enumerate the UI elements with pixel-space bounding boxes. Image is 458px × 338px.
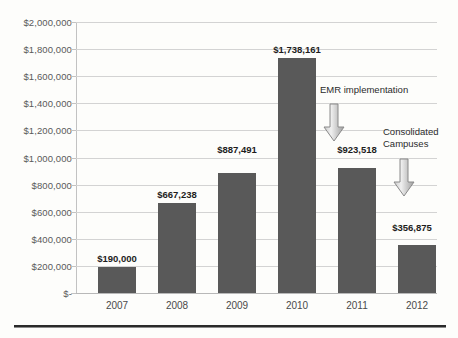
gridline: [76, 22, 437, 23]
gridline: [76, 158, 437, 159]
x-tick-label-2007: 2007: [106, 300, 128, 311]
bar-value-label-2012: $356,875: [392, 222, 432, 233]
gridline: [76, 212, 437, 213]
y-tick-label: $200,000: [0, 261, 72, 272]
x-tick-label-2010: 2010: [286, 300, 308, 311]
down-arrow-icon: [322, 103, 346, 143]
bar-value-label-2008: $667,238: [157, 189, 197, 200]
chart-page: $2,000,000 $1,800,000 $1,600,000 $1,400,…: [0, 0, 458, 338]
bar-value-label-2007: $190,000: [97, 253, 137, 264]
x-axis-baseline: [76, 293, 437, 294]
bar-2007[interactable]: [98, 267, 136, 293]
annotation-consolidated-text: Consolidated Campuses: [383, 126, 438, 150]
y-tick-label: $400,000: [0, 234, 72, 245]
gridline: [76, 185, 437, 186]
bar-2011[interactable]: [338, 168, 376, 293]
bar-value-label-2011: $923,518: [337, 144, 377, 155]
y-tick-label: $-: [0, 288, 72, 299]
gridline: [76, 239, 437, 240]
bar-value-label-2009: $887,491: [217, 144, 257, 155]
y-tick-label: $1,000,000: [0, 153, 72, 164]
x-tick-label-2011: 2011: [346, 300, 368, 311]
y-tick-label: $1,400,000: [0, 98, 72, 109]
bar-2010[interactable]: [278, 58, 316, 293]
annotation-emr-text: EMR implementation: [320, 84, 408, 96]
y-tick-label: $800,000: [0, 180, 72, 191]
gridline: [76, 76, 437, 77]
y-tick-label: $1,200,000: [0, 125, 72, 136]
y-axis-tick-labels: $2,000,000 $1,800,000 $1,600,000 $1,400,…: [0, 0, 72, 338]
y-tick-label: $2,000,000: [0, 17, 72, 28]
bar-2009[interactable]: [218, 173, 256, 293]
gridline: [76, 103, 437, 104]
down-arrow-icon: [392, 158, 416, 198]
y-tick-label: $1,800,000: [0, 44, 72, 55]
page-divider-rule-shadow: [14, 327, 446, 328]
bar-2012[interactable]: [398, 245, 436, 293]
x-tick-label-2008: 2008: [166, 300, 188, 311]
x-tick-label-2012: 2012: [406, 300, 428, 311]
bar-value-label-2010: $1,738,161: [273, 44, 321, 55]
gridline: [76, 49, 437, 50]
y-tick-label: $1,600,000: [0, 71, 72, 82]
bar-2008[interactable]: [158, 203, 196, 293]
y-tick-label: $600,000: [0, 207, 72, 218]
x-tick-label-2009: 2009: [226, 300, 248, 311]
